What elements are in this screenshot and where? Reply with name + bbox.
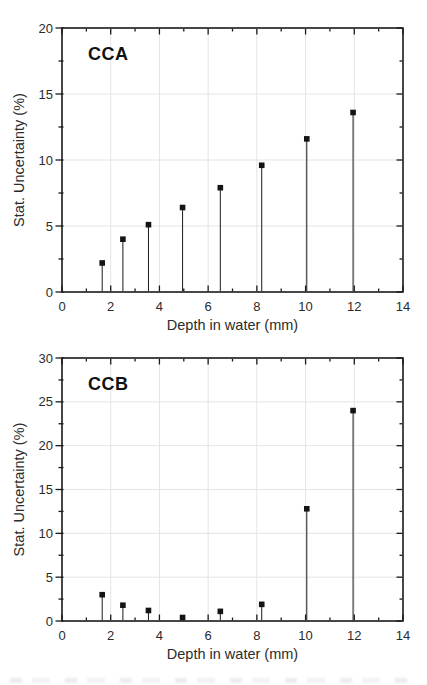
x-tick-label: 6 [205,299,212,314]
cca-plot-svg: 0246810121405101520Depth in water (mm)St… [0,0,427,343]
y-tick-label: 30 [39,351,53,366]
data-point-marker [259,162,265,168]
y-tick-label: 25 [39,394,53,409]
data-point-marker [350,408,356,414]
x-tick-label: 8 [253,628,260,643]
cropped-caption-artifact [10,678,415,683]
x-axis-label: Depth in water (mm) [167,317,298,333]
data-point-marker [120,602,126,608]
data-point-marker [180,615,186,621]
x-tick-label: 6 [205,628,212,643]
data-point-marker [350,110,356,116]
data-point-marker [146,608,152,614]
x-tick-label: 10 [298,299,312,314]
x-tick-label: 14 [396,628,410,643]
chart-title: CCA [88,44,129,64]
ccb-plot-svg: 02468101214051015202530Depth in water (m… [0,343,427,685]
y-tick-label: 0 [46,285,53,300]
cca-stem-chart: 0246810121405101520Depth in water (mm)St… [0,0,427,343]
y-tick-label: 15 [39,482,53,497]
y-tick-label: 20 [39,21,53,36]
x-tick-label: 12 [347,299,361,314]
x-tick-label: 4 [156,299,163,314]
x-tick-label: 10 [298,628,312,643]
data-point-marker [120,236,126,242]
x-tick-label: 12 [347,628,361,643]
x-tick-label: 8 [253,299,260,314]
x-tick-label: 0 [58,299,65,314]
data-point-marker [99,260,105,266]
y-tick-label: 10 [39,153,53,168]
data-point-marker [218,609,224,615]
x-tick-label: 2 [107,628,114,643]
y-tick-label: 15 [39,87,53,102]
data-point-marker [180,205,186,211]
data-point-marker [146,222,152,228]
data-point-marker [99,592,105,598]
y-tick-label: 0 [46,614,53,629]
chart-title: CCB [88,374,129,394]
x-tick-label: 0 [58,628,65,643]
y-tick-label: 10 [39,526,53,541]
x-tick-label: 2 [107,299,114,314]
y-tick-label: 20 [39,438,53,453]
y-tick-label: 5 [46,219,53,234]
x-tick-label: 14 [396,299,410,314]
ccb-stem-chart: 02468101214051015202530Depth in water (m… [0,343,427,685]
x-tick-label: 4 [156,628,163,643]
data-point-marker [218,185,224,191]
x-axis-label: Depth in water (mm) [167,646,298,662]
y-axis-label: Stat. Uncertainty (%) [11,93,27,227]
y-axis-label: Stat. Uncertainty (%) [11,423,27,557]
data-point-marker [304,136,310,142]
data-point-marker [259,602,265,608]
y-tick-label: 5 [46,570,53,585]
figure-page: 0246810121405101520Depth in water (mm)St… [0,0,427,685]
data-point-marker [304,506,310,512]
